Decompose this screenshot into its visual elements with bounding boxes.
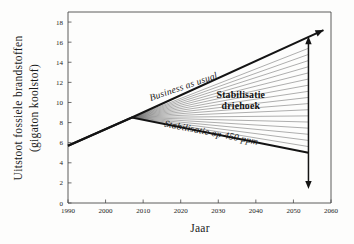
y-tick-label: 2 xyxy=(60,179,64,187)
y-tick-label: 4 xyxy=(60,159,64,167)
x-tick-label: 2060 xyxy=(324,207,339,215)
y-tick-label: 12 xyxy=(56,79,64,87)
x-axis-title: Jaar xyxy=(190,222,210,234)
x-tick-label: 2040 xyxy=(249,207,264,215)
x-tick-label: 1990 xyxy=(61,207,76,215)
y-tick-label: 10 xyxy=(56,99,64,107)
x-tick-label: 2050 xyxy=(286,207,301,215)
y-axis-title: Uitstoot fossiele brandstoffen (gigaton … xyxy=(12,36,41,181)
y-axis-title-line1: Uitstoot fossiele brandstoffen xyxy=(12,36,24,181)
x-tick-label: 2020 xyxy=(174,207,189,215)
y-tick-label: 18 xyxy=(56,19,64,27)
wedge-label-line2: driehoek xyxy=(222,100,261,111)
y-axis-title-line2: (gigaton koolstof) xyxy=(28,64,41,152)
y-tick-label: 14 xyxy=(56,59,64,67)
stabilization-wedge-chart: 024681012141618 199020002010202020302040… xyxy=(0,0,354,244)
x-tick-label: 2010 xyxy=(136,207,151,215)
x-tick-label: 2000 xyxy=(99,207,114,215)
y-tick-label: 6 xyxy=(60,139,64,147)
y-tick-label: 8 xyxy=(60,119,64,127)
x-tick-label: 2030 xyxy=(211,207,226,215)
chart-figure: 024681012141618 199020002010202020302040… xyxy=(0,0,354,244)
y-tick-label: 16 xyxy=(56,39,64,47)
